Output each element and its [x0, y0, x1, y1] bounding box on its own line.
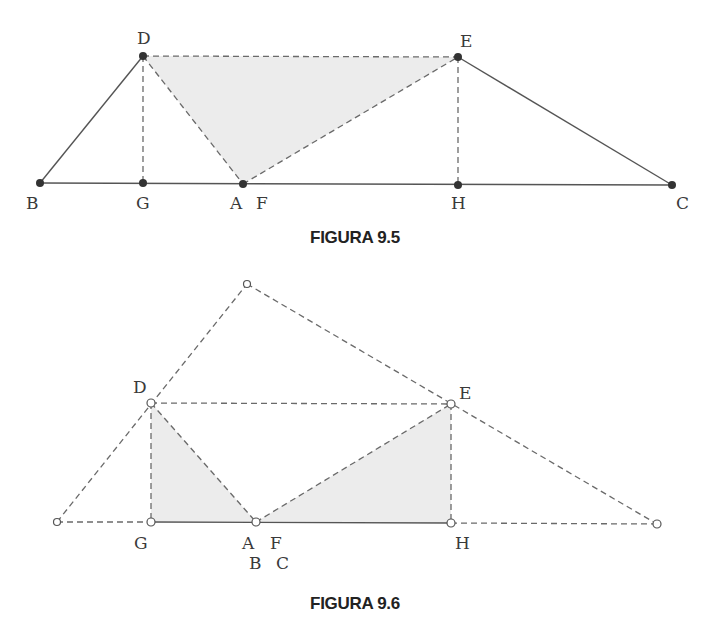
segment-BC-baseline	[40, 183, 672, 185]
label-E: E	[459, 383, 471, 403]
figure-9-6: D E G A F B C H FIGURA 9.6	[54, 281, 662, 614]
label-B: B	[26, 193, 39, 213]
geometry-figures: D E B G A F H C FIGURA 9.5 D E G A	[0, 0, 711, 629]
point-E	[447, 400, 455, 408]
label-H: H	[451, 193, 466, 213]
point-G	[147, 518, 155, 526]
point-A	[252, 518, 260, 526]
label-A: A	[241, 533, 255, 553]
point-right	[653, 520, 661, 528]
point-H	[454, 181, 462, 189]
label-C: C	[676, 193, 689, 213]
point-D	[139, 52, 147, 60]
label-C: C	[276, 553, 289, 573]
point-C	[668, 181, 676, 189]
label-A: A	[229, 193, 243, 213]
segment-DE-dashed	[151, 403, 451, 404]
point-G	[139, 179, 147, 187]
label-F: F	[256, 193, 268, 213]
point-B	[36, 179, 44, 187]
label-G: G	[136, 193, 150, 213]
point-H	[447, 519, 455, 527]
segment-EC	[458, 57, 672, 185]
label-D: D	[137, 28, 151, 48]
segment-H-right-dashed	[451, 523, 657, 524]
label-G: G	[134, 533, 148, 553]
figure-9-5: D E B G A F H C FIGURA 9.5	[26, 28, 689, 247]
point-apex	[244, 281, 251, 288]
point-E	[454, 53, 462, 61]
label-E: E	[460, 31, 472, 51]
segment-GH-solid	[151, 522, 451, 523]
caption-figure-9-6: FIGURA 9.6	[310, 594, 400, 613]
segment-BD	[40, 56, 143, 183]
label-F: F	[270, 533, 282, 553]
label-B: B	[249, 553, 262, 573]
point-D	[147, 399, 155, 407]
label-D: D	[133, 377, 147, 397]
caption-figure-9-5: FIGURA 9.5	[310, 228, 400, 247]
label-H: H	[455, 533, 470, 553]
point-A	[239, 180, 247, 188]
shaded-triangle-DEA	[143, 56, 458, 184]
point-left	[54, 519, 61, 526]
